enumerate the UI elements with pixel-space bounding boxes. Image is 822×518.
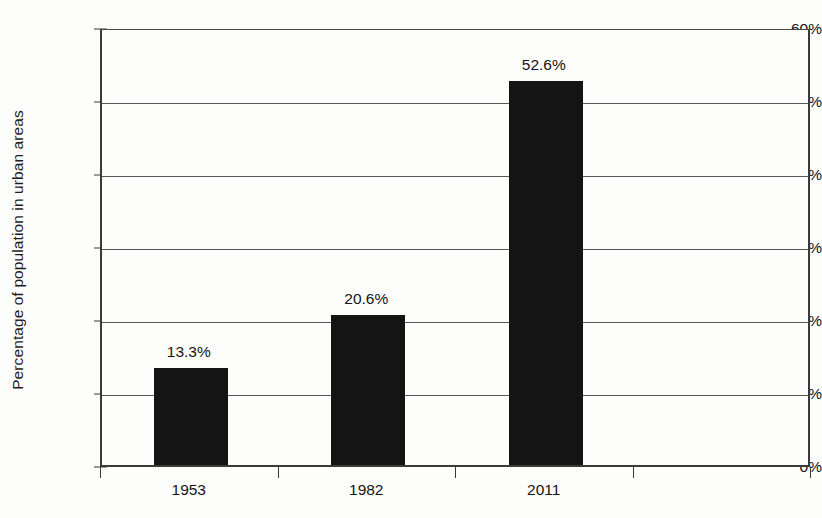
- bar: [154, 368, 228, 465]
- bar: [331, 315, 405, 465]
- bar-value-label: 13.3%: [167, 343, 211, 361]
- gridline: [102, 103, 808, 104]
- x-tick-mark: [633, 467, 634, 478]
- plot-area: [100, 29, 810, 467]
- gridline: [102, 176, 808, 177]
- bar-chart: Percentage of population in urban areas …: [0, 0, 822, 518]
- y-axis-title-text: Percentage of population in urban areas: [9, 110, 27, 390]
- bar-value-label: 20.6%: [344, 290, 388, 308]
- x-tick-mark: [278, 467, 279, 478]
- gridline: [102, 322, 808, 323]
- x-tick-label: 1982: [349, 481, 383, 499]
- y-axis-title: Percentage of population in urban areas: [0, 0, 36, 500]
- bar-value-label: 52.6%: [522, 56, 566, 74]
- gridline: [102, 249, 808, 250]
- x-tick-mark: [810, 467, 811, 478]
- x-tick-label: 2011: [527, 481, 560, 499]
- x-tick-mark: [455, 467, 456, 478]
- x-tick-mark: [100, 467, 101, 478]
- bar: [509, 81, 583, 465]
- x-tick-label: 1953: [172, 481, 206, 499]
